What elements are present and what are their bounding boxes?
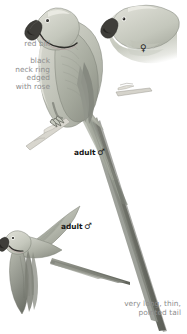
female-symbol: ♀	[140, 44, 147, 53]
male-symbol-perched: ♂	[96, 147, 105, 157]
plate-illustration	[0, 0, 187, 334]
eye	[45, 18, 50, 23]
male-symbol-flying: ♂	[83, 221, 92, 231]
caption-adult-male-perched: adult♂	[74, 148, 105, 157]
annotation-pointed-tail: very long, thin, pointed tail	[103, 300, 181, 317]
caption-adult-male-perched-text: adult	[74, 148, 96, 157]
female-eye	[122, 17, 127, 22]
caption-adult-male-flying-text: adult	[61, 222, 83, 231]
annotation-neck-ring: black neck ring edged with rose	[0, 57, 50, 91]
bird-plate: red bill black neck ring edged with rose…	[0, 0, 187, 334]
caption-adult-male-flying: adult♂	[61, 222, 92, 231]
female-head-figure	[101, 5, 180, 63]
annotation-red-bill: red bill	[4, 40, 50, 49]
perch-branch-upper	[116, 83, 152, 96]
